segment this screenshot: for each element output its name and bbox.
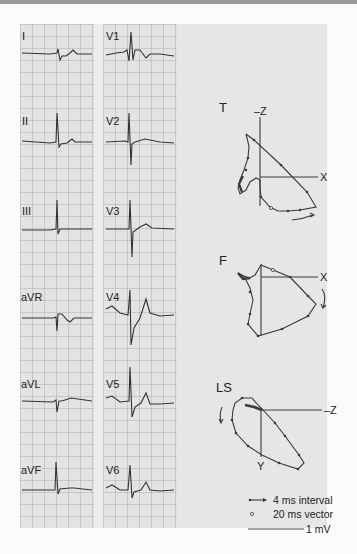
ls-rotation-arrow	[220, 407, 222, 422]
t-axis-minus-z-label: –Z	[254, 105, 267, 117]
ls-plane-label: LS	[216, 380, 232, 395]
legend-vector-marker	[250, 512, 253, 515]
t-axis-x-label: X	[320, 171, 327, 183]
f-rotation-arrow	[322, 289, 325, 308]
legend-scale-text: 1 mV	[306, 523, 331, 535]
t-20ms-vector-marker	[269, 206, 272, 209]
t-plane-loop	[238, 134, 316, 211]
ls-plane-loop	[232, 398, 304, 469]
f-plane-label: F	[219, 253, 227, 268]
ls-axis-y-label: Y	[257, 460, 264, 472]
f-axis-x-label: X	[320, 271, 327, 283]
f-plane-loop	[238, 265, 316, 336]
f-20ms-vector-marker	[271, 268, 274, 271]
vectorcardiogram-loops	[0, 0, 357, 554]
legend-interval-text: 4 ms interval	[273, 494, 333, 506]
legend-vector-text: 20 ms vector	[273, 508, 333, 520]
t-plane-label: T	[219, 100, 227, 115]
t-rotation-arrow	[292, 215, 313, 220]
ls-axis-minus-z-label: –Z	[324, 404, 337, 416]
